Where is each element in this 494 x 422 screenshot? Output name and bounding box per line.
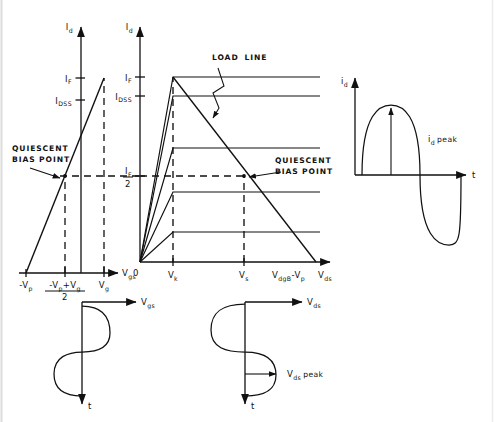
drain-origin-label: 0 (133, 268, 139, 278)
figure-canvas: Id IF IDSS Vgs -Vp -Vp+Vg 2 Vg QUIESCENT… (0, 0, 494, 422)
vgs-wave-time-label: t (88, 401, 92, 411)
drain-fraction-denominator: 2 (125, 179, 131, 189)
id-wave-x-axis-label: t (472, 170, 476, 180)
drain-quiescent-label-line2: BIAS POINT (275, 167, 333, 176)
transfer-quiescent-label-line2: BIAS POINT (12, 155, 70, 164)
fet-bias-diagram: Id IF IDSS Vgs -Vp -Vp+Vg 2 Vg QUIESCENT… (0, 0, 494, 422)
drain-quiescent-label-line1: QUIESCENT (275, 156, 332, 165)
vds-wave-time-label: t (251, 401, 255, 411)
fraction-denominator: 2 (62, 292, 68, 302)
transfer-bias-point (63, 174, 67, 178)
transfer-quiescent-label-line1: QUIESCENT (12, 144, 69, 153)
drain-bias-point (242, 174, 246, 178)
page-background (0, 0, 494, 422)
vds-peak-label: Vdspeak (287, 369, 324, 381)
